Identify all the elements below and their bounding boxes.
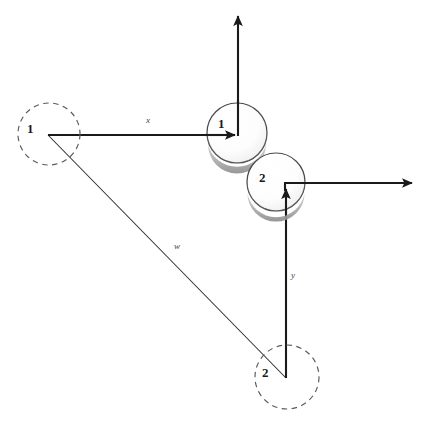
initial-position-body-1-label: 1 — [27, 121, 34, 137]
physics-vector-diagram: 1 1 2 2 x y w — [0, 0, 424, 425]
vector-y-label: y — [291, 270, 295, 280]
vector-w-label: w — [174, 241, 180, 251]
current-position-body-2-label: 2 — [259, 170, 266, 186]
diagram-canvas — [0, 0, 424, 425]
vector-x-label: x — [146, 115, 150, 125]
current-position-body-1-label: 1 — [218, 116, 225, 132]
current-position-body-2-sphere — [247, 153, 305, 222]
initial-position-body-2-label: 2 — [262, 365, 269, 381]
